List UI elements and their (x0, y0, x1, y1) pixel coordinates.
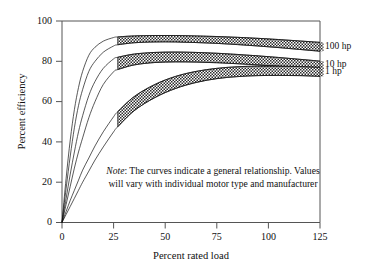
curve-1-hp-lower (62, 75, 320, 222)
note-line-1: : The curves indicate a general (124, 165, 241, 176)
chart-note: Note: The curves indicate a general rela… (104, 164, 322, 190)
legend-item-100-hp: 100 hp (325, 41, 351, 51)
legend-swatches (321, 42, 324, 76)
y-axis-ticks (56, 21, 62, 223)
x-tick-label: 25 (99, 231, 129, 242)
chart-container: Percent efficiency Percent rated load 10… (0, 0, 375, 273)
x-axis-title: Percent rated load (62, 250, 320, 261)
legend-item-1-hp: 1 hp (325, 66, 342, 76)
x-tick-label: 0 (47, 231, 77, 242)
y-tick-label: 60 (26, 95, 52, 106)
x-tick-label: 100 (253, 231, 283, 242)
x-tick-label: 50 (150, 231, 180, 242)
y-tick-label: 0 (26, 216, 52, 227)
y-axis-title: Percent efficiency (16, 52, 27, 172)
legend-swatch-100-hp (321, 42, 324, 51)
x-tick-label: 125 (305, 231, 335, 242)
legend-swatch-1-hp (321, 67, 324, 76)
x-axis-ticks (62, 223, 320, 229)
note-emphasis: Note (106, 165, 124, 176)
x-tick-label: 75 (202, 231, 232, 242)
curve-10-hp-lower (62, 62, 320, 223)
y-tick-label: 40 (26, 136, 52, 147)
y-tick-label: 80 (26, 55, 52, 66)
note-line-3: individual motor type and manufacturer (165, 178, 318, 189)
y-tick-label: 100 (26, 15, 52, 26)
series-layer (62, 35, 320, 222)
y-tick-label: 20 (26, 176, 52, 187)
plot-frame (62, 21, 320, 223)
